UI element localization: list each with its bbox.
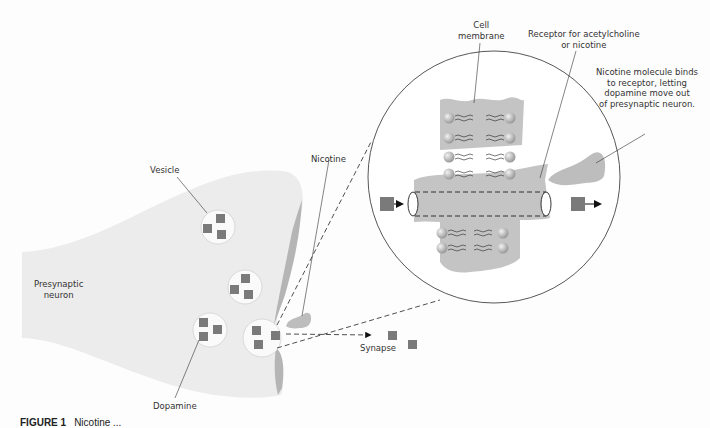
label-cell-membrane-line1: Cell [458,20,505,31]
label-cell-membrane: Cell membrane [458,20,505,41]
magnified-view [368,51,620,303]
dopamine-released-1 [388,331,397,340]
label-binding-line2: to receptor, letting [596,78,698,89]
label-binding-line3: dopamine move out [596,88,698,99]
figure-caption-text: Nicotine ... [74,417,121,428]
label-receptor: Receptor for acetylcholine or nicotine [528,29,640,50]
label-binding-line4: of presynaptic neuron. [596,99,698,110]
label-synapse: Synapse [360,343,396,354]
label-receptor-line2: or nicotine [528,40,640,51]
dopamine-released-2 [408,340,417,349]
release-arrow [286,334,370,335]
label-nicotine: Nicotine [311,154,346,165]
figure-caption: FIGURE 1Nicotine ... [20,417,121,428]
label-cell-membrane-line2: membrane [458,31,505,42]
vesicle-1 [201,210,235,244]
vesicle-2 [228,270,262,304]
label-receptor-line1: Receptor for acetylcholine [528,29,640,40]
label-binding-line1: Nicotine molecule binds [596,67,698,78]
label-presynaptic-line2: neuron [34,290,83,301]
label-vesicle: Vesicle [150,165,179,176]
label-presynaptic-line1: Presynaptic [34,279,83,290]
label-nicotine-binding: Nicotine molecule binds to receptor, let… [596,67,698,109]
vesicle-releasing [243,319,281,357]
label-presynaptic-neuron: Presynaptic neuron [34,279,83,300]
figure-label: FIGURE 1 [20,417,66,428]
nicotine-molecule-small [286,313,311,329]
label-dopamine: Dopamine [153,401,197,412]
dopamine-exiting [571,197,585,211]
dopamine-entering [380,197,394,211]
